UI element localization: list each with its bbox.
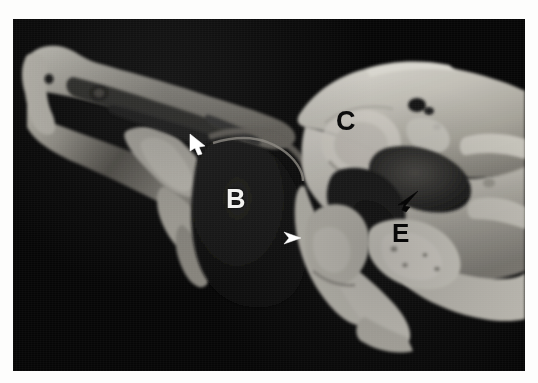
black-arrow-icon xyxy=(396,190,420,214)
label-c: C xyxy=(336,108,356,135)
specimen-image xyxy=(13,19,525,371)
label-b: B xyxy=(226,186,246,213)
label-e: E xyxy=(392,220,409,246)
figure-root: B C E xyxy=(0,0,538,383)
white-arrow-icon xyxy=(188,132,214,158)
specimen-photograph xyxy=(13,19,525,371)
white-arrowhead-icon xyxy=(284,228,310,248)
